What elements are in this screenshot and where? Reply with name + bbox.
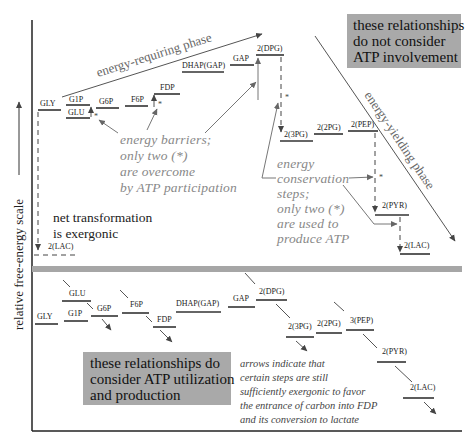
bottom-level-gap: GAP: [228, 294, 255, 307]
svg-text:are used to: are used to: [277, 216, 339, 231]
barrier-pointer-2: [147, 109, 157, 130]
bottom-fdp-arrow-icon: [160, 330, 172, 342]
svg-text:conservation: conservation: [277, 171, 349, 186]
svg-text:energy: energy: [277, 156, 314, 171]
top-level-f6p: F6P: [125, 95, 148, 106]
svg-text:these relationships: these relationships: [353, 17, 464, 33]
bottom-fdp-tick: [146, 316, 152, 322]
top-level-fdp: FDP: [154, 83, 180, 94]
bottom-lac-tick: [395, 366, 412, 382]
svg-text:2(LAC): 2(LAC): [410, 383, 436, 392]
svg-text:and its conversion to lactate: and its conversion to lactate: [240, 414, 359, 425]
svg-text:2(PYR): 2(PYR): [382, 347, 407, 356]
top-level-3pg: 2(3PG): [280, 130, 313, 141]
svg-text:GLY: GLY: [40, 99, 56, 108]
svg-text:energy barriers;: energy barriers;: [120, 132, 212, 147]
energy-yielding-phase-label: energy-yielding phase: [362, 88, 439, 192]
y-axis-label: relative free-energy scale: [11, 199, 26, 330]
svg-text:these relationships do: these relationships do: [90, 355, 220, 371]
bottom-level-pep: 3(PEP): [346, 316, 374, 330]
bottom-lac-arrow-icon: [424, 402, 436, 414]
bottom-dpg-tick: [245, 273, 255, 284]
svg-text:the entrance of carbon into FD: the entrance of carbon into FDP: [240, 400, 378, 411]
top-level-2pg: 2(2PG): [314, 123, 343, 134]
bottom-g6p-arrow-icon: [102, 319, 111, 330]
barrier-star-1: *: [94, 112, 98, 121]
svg-text:2(LAC): 2(LAC): [404, 241, 430, 250]
svg-text:GLU: GLU: [69, 289, 86, 298]
svg-text:are overcome: are overcome: [120, 164, 195, 179]
top-level-g1p: G1P: [66, 95, 90, 105]
svg-text:2(3PG): 2(3PG): [284, 130, 308, 139]
barrier-star-2: *: [158, 100, 162, 109]
bottom-info-box: these relationships do consider ATP util…: [83, 352, 235, 405]
svg-text:G6P: G6P: [99, 97, 114, 106]
svg-text:DHAP(GAP): DHAP(GAP): [182, 61, 225, 70]
panel-divider: [32, 266, 462, 272]
bottom-g6p-tick: [87, 303, 93, 309]
svg-text:arrows indicate that: arrows indicate that: [240, 358, 326, 369]
top-level-gly: GLY: [38, 99, 61, 110]
top-level-glu: GLU: [66, 108, 90, 118]
svg-text:certain steps are still: certain steps are still: [240, 372, 328, 383]
bottom-level-gly: GLY: [35, 312, 58, 324]
svg-text:2(3PG): 2(3PG): [288, 322, 312, 331]
top-level-pyr: 2(PYR): [375, 201, 409, 215]
bottom-level-f6p: F6P: [122, 300, 149, 313]
svg-text:2(PEP): 2(PEP): [351, 120, 374, 129]
svg-text:produce ATP: produce ATP: [276, 231, 350, 246]
svg-text:G1P: G1P: [68, 309, 83, 318]
bottom-f6p-tick: [120, 290, 128, 298]
svg-text:2(DPG): 2(DPG): [257, 44, 283, 53]
bottom-3pg-tick: [276, 304, 290, 318]
svg-text:net transformation: net transformation: [53, 210, 153, 225]
svg-text:FDP: FDP: [157, 315, 172, 324]
svg-text:sufficiently exergonic to favo: sufficiently exergonic to favor: [240, 386, 366, 397]
lac-left-label: 2(LAC): [48, 242, 74, 251]
svg-text:FDP: FDP: [160, 83, 175, 92]
bottom-level-g6p: G6P: [91, 304, 118, 316]
bottom-level-2pg: 2(2PG): [316, 319, 342, 333]
svg-text:relative free-energy scale: relative free-energy scale: [11, 199, 26, 330]
barrier-pointer-3: [205, 82, 256, 133]
svg-text:steps;: steps;: [277, 186, 310, 201]
svg-text:G6P: G6P: [97, 304, 112, 313]
svg-text:GLU: GLU: [68, 108, 85, 117]
svg-text:is exergonic: is exergonic: [53, 226, 118, 241]
conservation-star-1: *: [285, 93, 289, 102]
bottom-level-glu: GLU: [62, 289, 91, 301]
bottom-3pg-arrow-icon: [296, 341, 307, 351]
svg-text:only two (*): only two (*): [120, 148, 188, 163]
top-level-gap: GAP: [230, 54, 254, 65]
bottom-pyr-tick: [363, 334, 377, 348]
svg-text:GAP: GAP: [233, 54, 250, 63]
bottom-level-fdp: FDP: [153, 315, 176, 327]
bottom-pep-tick: [334, 302, 344, 311]
conservation-pointer-1: [262, 103, 278, 178]
conservation-star-2: *: [379, 173, 383, 182]
bottom-level-lac: 2(LAC): [403, 383, 436, 398]
svg-text:G1P: G1P: [69, 95, 84, 104]
svg-text:2(2PG): 2(2PG): [317, 319, 341, 328]
barrier-pointer-1: [99, 120, 118, 133]
bottom-level-dpg: 2(DPG): [256, 287, 287, 300]
top-level-lac: 2(LAC): [400, 241, 430, 254]
svg-text:2(PYR): 2(PYR): [382, 201, 407, 210]
svg-text:by ATP participation: by ATP participation: [120, 180, 237, 195]
svg-text:ATP involvement: ATP involvement: [353, 49, 459, 65]
arrows-note: arrows indicate that certain steps are s…: [240, 358, 378, 425]
bottom-level-g1p: G1P: [64, 309, 88, 321]
glycolysis-energy-diagram: relative free-energy scale these relatio…: [0, 0, 471, 440]
energy-barriers-note: energy barriers; only two (*) are overco…: [120, 132, 237, 195]
bottom-level-3pg: 2(3PG): [286, 322, 314, 337]
net-transformation-note: net transformation is exergonic: [53, 210, 153, 241]
svg-text:GAP: GAP: [233, 294, 250, 303]
svg-text:energy-yielding phase: energy-yielding phase: [362, 88, 439, 192]
svg-text:GLY: GLY: [37, 312, 53, 321]
energy-conservation-note: energy conservation steps; only two (*) …: [276, 156, 350, 246]
svg-text:2(2PG): 2(2PG): [317, 123, 341, 132]
svg-text:F6P: F6P: [130, 300, 143, 309]
svg-text:2(DPG): 2(DPG): [259, 287, 285, 296]
bottom-level-dhap: DHAP(GAP): [176, 299, 221, 312]
bottom-level-pyr: 2(PYR): [377, 347, 407, 362]
